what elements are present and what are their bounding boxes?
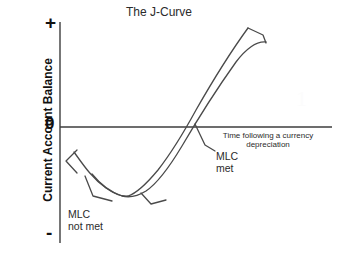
annotation-mlc-not-met-line1: MLC	[68, 208, 90, 220]
x-axis-title-line2: depreciation	[246, 140, 290, 149]
trough-right-bracket-icon	[141, 193, 166, 204]
j-curve-figure: The J-Curve Current Account Balance + 0 …	[0, 0, 349, 253]
x-axis-title: Time following a currencydepreciation	[198, 131, 338, 149]
y-tick-positive: +	[45, 12, 56, 34]
y-tick-zero: 0	[45, 114, 54, 134]
annotation-mlc-not-met: MLCnot met	[68, 208, 103, 232]
annotation-mlc-met-line2: met	[216, 162, 234, 174]
watermark: 1	[296, 86, 307, 112]
j-curve-lower-line	[92, 42, 266, 197]
y-tick-negative: -	[46, 222, 52, 244]
x-axis-title-line1: Time following a currency	[223, 131, 313, 140]
annotation-mlc-met-line1: MLC	[216, 150, 238, 162]
annotation-mlc-met: MLCmet	[216, 150, 238, 174]
top-right-bracket-icon	[248, 28, 266, 43]
annotation-mlc-not-met-line2: not met	[68, 220, 103, 232]
page-title: The J-Curve	[126, 6, 192, 20]
